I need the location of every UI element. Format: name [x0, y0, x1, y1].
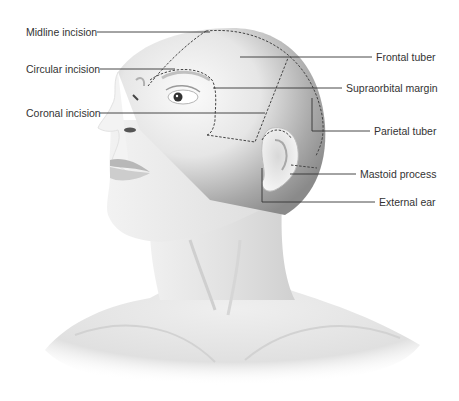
shoulders-shape — [45, 290, 420, 385]
label-parietal-tuber: Parietal tuber — [374, 125, 436, 137]
label-supraorbital-margin: Supraorbital margin — [346, 82, 438, 94]
label-circular-incision: Circular incision — [26, 63, 100, 75]
label-coronal-incision: Coronal incision — [26, 107, 101, 119]
label-frontal-tuber: Frontal tuber — [376, 51, 436, 63]
anatomy-figure: Midline incision Circular incision Coron… — [0, 0, 459, 401]
label-mastoid-process: Mastoid process — [360, 168, 436, 180]
label-external-ear: External ear — [379, 196, 436, 208]
eye-shape — [168, 90, 198, 104]
label-midline-incision: Midline incision — [26, 26, 97, 38]
